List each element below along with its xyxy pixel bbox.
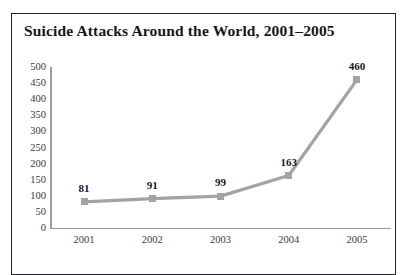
data-point-marker xyxy=(353,76,360,83)
data-point-marker xyxy=(81,198,88,205)
data-point-label: 81 xyxy=(59,183,109,194)
data-point-marker xyxy=(285,172,292,179)
data-point-marker xyxy=(217,193,224,200)
data-point-label: 91 xyxy=(127,180,177,191)
data-point-marker xyxy=(149,195,156,202)
data-point-label: 163 xyxy=(264,157,314,168)
data-point-label: 460 xyxy=(332,61,382,72)
data-point-label: 99 xyxy=(196,177,246,188)
